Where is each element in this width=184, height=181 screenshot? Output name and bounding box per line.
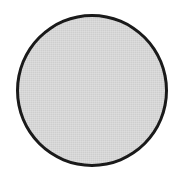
circle-shape	[16, 14, 168, 167]
diagram-canvas	[0, 0, 184, 181]
